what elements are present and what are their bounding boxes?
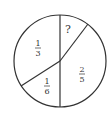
label-one-sixth-denominator: 6 [44, 87, 49, 96]
label-one-third: 1 3 [35, 39, 41, 58]
label-one-third-numerator: 1 [35, 39, 40, 48]
label-one-third-denominator: 3 [35, 49, 40, 58]
divider-lower-left [21, 61, 60, 86]
label-one-sixth-numerator: 1 [44, 77, 49, 86]
label-two-fifths: 2 5 [79, 65, 85, 84]
label-unknown: ? [65, 23, 71, 36]
pie-diagram: 1 3 1 6 2 5 ? [0, 0, 109, 117]
label-one-sixth: 1 6 [44, 77, 50, 96]
label-two-fifths-denominator: 5 [79, 75, 84, 84]
label-two-fifths-numerator: 2 [79, 65, 84, 74]
